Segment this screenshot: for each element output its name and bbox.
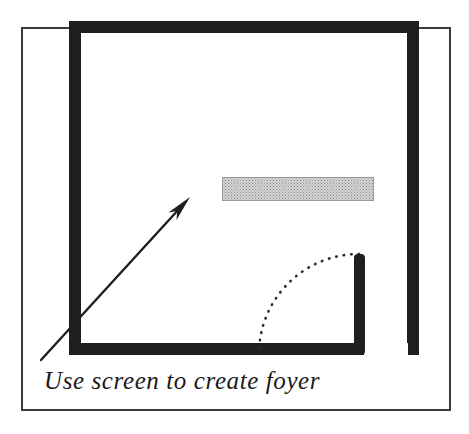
folding-screen (222, 177, 374, 201)
floor-plan-figure: Use screen to create foyer (0, 0, 469, 434)
floor-plan-canvas: Use screen to create foyer (0, 0, 469, 434)
figure-caption: Use screen to create foyer (44, 367, 320, 394)
door-post (354, 254, 365, 355)
